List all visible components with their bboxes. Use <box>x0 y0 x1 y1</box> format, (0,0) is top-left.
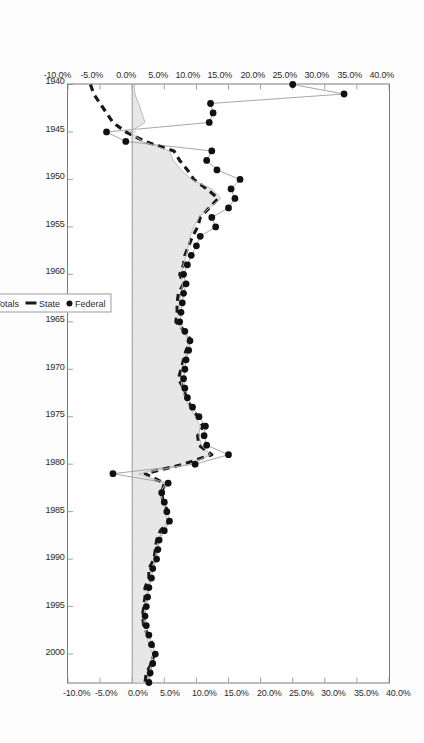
series-totals-area <box>130 84 221 682</box>
x-axis-tick-label: 1980 <box>41 456 69 466</box>
legend-item-totals: Totals <box>0 297 19 308</box>
legend-item-state: State <box>25 297 60 307</box>
rotated-figure: 40.0%35.0%30.0%25.0%20.0%15.0%10.0%5.0%0… <box>0 0 424 743</box>
x-axis-tick-label: 1950 <box>41 170 69 180</box>
dash-swatch-icon <box>25 301 36 304</box>
x-axis-tick-label: 1995 <box>41 599 69 609</box>
axis-ticks <box>68 84 389 682</box>
x-axis-tick-label: 1970 <box>41 361 69 371</box>
legend-item-federal: Federal <box>66 297 106 307</box>
figure-canvas: 40.0%35.0%30.0%25.0%20.0%15.0%10.0%5.0%0… <box>0 0 424 743</box>
x-axis-tick-label: 1940 <box>41 75 69 85</box>
plot-area <box>67 83 390 683</box>
legend-label-state: State <box>39 297 60 307</box>
x-axis-tick-label: 1990 <box>41 551 69 561</box>
x-axis-tick-label: 1975 <box>41 408 69 418</box>
chart-svg <box>68 84 389 682</box>
dot-swatch-icon <box>66 299 72 305</box>
legend-label-federal: Federal <box>75 297 106 307</box>
chart-legend: Totals State Federal <box>0 293 112 312</box>
y-axis-tick-label: -10.0% <box>63 687 121 697</box>
legend-label-totals: Totals <box>0 297 19 307</box>
chart-page: 40.0%35.0%30.0%25.0%20.0%15.0%10.0%5.0%0… <box>0 0 424 743</box>
x-axis-tick-label: 2000 <box>41 646 69 656</box>
x-axis-tick-label: 1985 <box>41 504 69 514</box>
x-axis-tick-label: 1960 <box>41 265 69 275</box>
x-axis-tick-label: 1955 <box>41 218 69 228</box>
x-axis-tick-label: 1965 <box>41 313 69 323</box>
x-axis-tick-label: 1945 <box>41 123 69 133</box>
